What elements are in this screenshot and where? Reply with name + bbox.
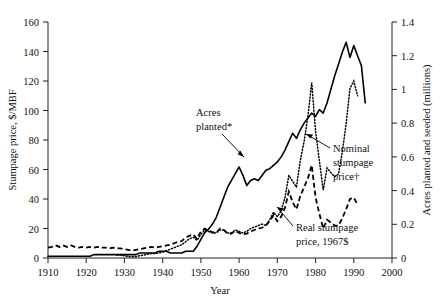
y2-tick-label-0.6: 0.6 xyxy=(401,152,414,163)
x-tick-label-1920: 1920 xyxy=(76,267,97,278)
y-tick-label-140: 140 xyxy=(23,47,39,58)
annotation-acres-planted: Acres planted* xyxy=(196,107,244,157)
x-tick-label-1980: 1980 xyxy=(305,267,326,278)
chart-svg: 160 140 120 100 80 60 40 20 0 1.4 1.2 1 … xyxy=(0,0,440,307)
y-tick-label-20: 20 xyxy=(29,224,40,235)
y-tick-label-40: 40 xyxy=(29,194,40,205)
y-axis-title: Stumpage price, $/MBF xyxy=(7,89,18,190)
annotation-nominal-price-line1: Nominal xyxy=(333,143,370,154)
y-axis-right-ticks: 1.4 1.2 1 0.8 0.6 0.4 0.2 0 xyxy=(392,17,415,264)
x-tick-label-1930: 1930 xyxy=(114,267,135,278)
y2-tick-label-0.2: 0.2 xyxy=(401,219,414,230)
x-tick-label-2000: 2000 xyxy=(382,267,403,278)
y-tick-label-100: 100 xyxy=(23,106,39,117)
annotation-acres-planted-line2: planted* xyxy=(196,121,232,132)
annotation-real-price-line1: Real stumpage xyxy=(296,222,358,233)
annotation-nominal-price-line2: stumpage xyxy=(333,157,374,168)
x-tick-label-1950: 1950 xyxy=(190,267,211,278)
x-tick-label-1970: 1970 xyxy=(267,267,288,278)
x-tick-label-1960: 1960 xyxy=(229,267,250,278)
y2-tick-label-1.4: 1.4 xyxy=(401,17,415,28)
x-tick-label-1910: 1910 xyxy=(38,267,59,278)
y-tick-label-160: 160 xyxy=(23,17,39,28)
y2-tick-label-1.2: 1.2 xyxy=(401,51,414,62)
y-tick-label-120: 120 xyxy=(23,76,39,87)
y2-tick-label-0.8: 0.8 xyxy=(401,118,414,129)
y-tick-label-80: 80 xyxy=(29,135,40,146)
annotation-real-price: Real stumpage price, 1967$ xyxy=(277,207,358,247)
annotation-acres-planted-line1: Acres xyxy=(196,107,221,118)
x-axis-title: Year xyxy=(210,285,230,296)
annotation-real-price-arrowhead xyxy=(277,207,284,212)
annotation-real-price-line2: price, 1967$ xyxy=(296,236,349,247)
y-axis-left-ticks: 160 140 120 100 80 60 40 20 0 xyxy=(23,17,48,264)
x-axis-ticks: 1910 1920 1930 1940 1950 1960 1970 1980 … xyxy=(38,258,403,278)
y-tick-label-0: 0 xyxy=(34,253,39,264)
annotation-nominal-price-line3: price† xyxy=(333,171,359,182)
y-tick-label-60: 60 xyxy=(29,165,40,176)
x-tick-label-1940: 1940 xyxy=(152,267,173,278)
y2-axis-title: Acres planted and seeded (millions) xyxy=(421,64,433,216)
y2-tick-label-1: 1 xyxy=(401,84,406,95)
x-tick-label-1990: 1990 xyxy=(343,267,364,278)
chart-figure: 160 140 120 100 80 60 40 20 0 1.4 1.2 1 … xyxy=(0,0,440,307)
y2-tick-label-0.4: 0.4 xyxy=(401,186,415,197)
y2-tick-label-0: 0 xyxy=(401,253,406,264)
